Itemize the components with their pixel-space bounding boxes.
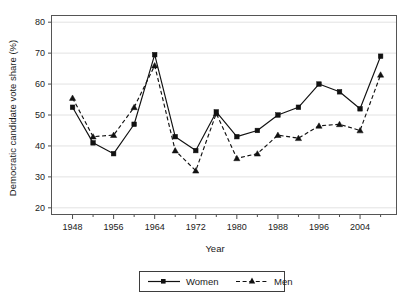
data-point-marker-women [255,128,260,133]
y-tick-label: 20 [35,203,45,213]
y-axis-title: Democratic candidate vote share (%) [7,40,18,196]
x-tick-label: 1988 [268,222,288,232]
data-point-marker-men [172,148,178,153]
data-point-marker-men [378,72,384,77]
x-tick-label: 1948 [63,222,83,232]
data-point-marker-women [173,134,178,139]
data-series [69,52,383,173]
y-axis-ticks: 20304050607080 [35,17,52,213]
data-point-marker-women [70,105,75,110]
data-point-marker-men [90,134,96,139]
y-tick-label: 50 [35,110,45,120]
legend-label-women: Women [186,276,219,287]
series-line-women [73,55,381,154]
series-line-men [73,66,381,171]
x-tick-label: 1996 [309,222,329,232]
data-point-marker-men [316,123,322,128]
data-point-marker-men [131,104,137,109]
x-tick-label: 1964 [145,222,165,232]
x-axis-title: Year [205,243,224,254]
y-tick-label: 30 [35,172,45,182]
chart-legend: Women Men [140,272,293,292]
y-tick-label: 70 [35,48,45,58]
data-point-marker-women [337,90,342,95]
data-point-marker-women [152,52,157,57]
data-point-marker-women [276,113,281,118]
y-tick-label: 60 [35,79,45,89]
x-axis-ticks: 19481956196419721980198819962004 [63,214,381,232]
data-point-marker-women [91,141,96,146]
gridlines [52,22,396,208]
data-point-marker-women [378,54,383,59]
data-point-marker-women [317,82,322,87]
data-point-marker-women [132,122,137,127]
data-point-marker-women [235,134,240,139]
data-point-marker-men [275,132,281,137]
x-tick-label: 2004 [350,222,370,232]
x-tick-label: 1956 [104,222,124,232]
data-point-marker-women [193,148,198,153]
y-tick-label: 80 [35,17,45,27]
legend-marker-women [161,279,166,284]
y-tick-label: 40 [35,141,45,151]
chart-figure: Democratic candidate vote share (%) Year… [0,0,409,299]
x-tick-label: 1980 [227,222,247,232]
data-point-marker-women [296,105,301,110]
data-point-marker-women [358,107,363,112]
data-point-marker-men [234,155,240,160]
x-tick-label: 1972 [186,222,206,232]
line-chart: Democratic candidate vote share (%) Year… [0,0,409,299]
legend-label-men: Men [274,276,292,287]
data-point-marker-women [111,151,116,156]
data-point-marker-men [69,95,75,100]
